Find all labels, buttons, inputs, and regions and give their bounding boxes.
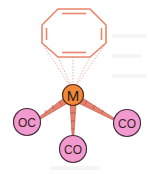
hapto-lines <box>42 43 106 86</box>
ligand-co-right: CO <box>114 110 141 137</box>
metal-center: M <box>63 85 84 106</box>
ligand-label-bottom: CO <box>64 143 82 157</box>
wedge-bond-bottom <box>70 105 76 135</box>
ligand-label-left: OC <box>18 116 36 130</box>
ligand-oc-left: OC <box>14 109 41 136</box>
ligand-co-bottom: CO <box>60 136 87 163</box>
cyclooctatetraene-ring <box>42 9 106 57</box>
ligand-label-right: CO <box>118 117 136 131</box>
wedge-bond-right <box>78 97 114 120</box>
metal-label: M <box>67 87 80 104</box>
organometallic-diagram: M OC CO CO <box>0 0 148 174</box>
ring-outline <box>42 9 106 57</box>
